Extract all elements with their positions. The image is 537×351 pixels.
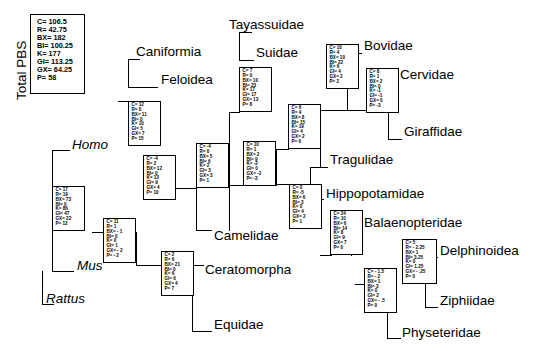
branch-horizontal xyxy=(192,331,212,332)
taxon-label-homo: Homo xyxy=(72,137,108,152)
pbs-row: P= 10 xyxy=(147,191,174,196)
pbs-row: P= - 2 xyxy=(107,254,134,259)
pbs-row: P= 1 xyxy=(200,179,227,184)
box-laurasiatheria: C= 11R= 1BX= - 1BI= 0K= 0GI= 1GX= - 2P= … xyxy=(103,218,136,263)
taxon-label-giraffidae: Giraffidae xyxy=(404,124,462,139)
branch-horizontal xyxy=(425,307,438,308)
taxon-label-ziphiidae: Ziphiidae xyxy=(440,293,495,308)
taxon-label-suidae: Suidae xyxy=(256,45,298,60)
branch-vertical xyxy=(276,149,277,186)
pbs-row: P= 2 xyxy=(330,80,357,85)
pbs-row: P= -3 xyxy=(247,177,274,182)
branch-horizontal xyxy=(387,338,401,339)
branch-vertical xyxy=(136,232,137,266)
taxon-label-hippopotamidae: Hippopotamidae xyxy=(326,186,424,201)
box-bovidae-node: C= 10R= 4BX= 10BI= 22K= 6GI= 4GX= 2P= 2 xyxy=(326,44,359,89)
branch-horizontal xyxy=(310,167,328,168)
branch-horizontal xyxy=(276,184,290,185)
box-carnivora: C= 12R= 0BX= 11BI= 0K= 10GI= 5GX= 7P= 15 xyxy=(128,101,161,146)
total-pbs-legend-box: C= 106.5 R= 42.75 BX= 182 BI= 100.25 K= … xyxy=(30,14,85,94)
legend-row: P= 58 xyxy=(37,74,79,82)
pbs-row: P= 7 xyxy=(165,287,192,292)
branch-horizontal xyxy=(239,60,254,61)
legend-title: Total PBS xyxy=(14,41,29,100)
branch-horizontal xyxy=(229,112,240,113)
branch-horizontal xyxy=(239,32,252,33)
taxon-label-rattus: Rattus xyxy=(46,291,85,306)
figure-canvas: Total PBS C= 106.5 R= 42.75 BX= 182 BI= … xyxy=(0,0,537,351)
taxon-label-equidae: Equidae xyxy=(214,317,264,332)
branch-horizontal xyxy=(196,230,212,231)
box-pecora: C= 6R= 4BX= 8BI= 15K= 19GI= 4GX= 2P= 0 xyxy=(288,104,321,149)
pbs-row: P= 0 xyxy=(406,275,435,280)
branch-horizontal xyxy=(229,185,244,186)
pbs-row: P= -3 xyxy=(370,104,397,109)
box-odontoceti: C= 5R= - 2.25BX= 1BI= 3.25K= 0GI= 1.25GX… xyxy=(402,239,437,284)
pbs-row: P= 0 xyxy=(368,304,395,309)
taxon-label-cervidae: Cervidae xyxy=(400,67,454,82)
branch-vertical xyxy=(42,271,43,305)
taxon-label-delphinoidea: Delphinoidea xyxy=(440,243,519,258)
pbs-row: P= 0 xyxy=(334,246,361,251)
box-ruminantia: C= 10R= 1BX= 2BI= 9K= -2GI= 0GX= -2P= -3 xyxy=(243,141,276,186)
branch-horizontal xyxy=(276,149,289,150)
pbs-row: P= 1 xyxy=(293,220,320,225)
taxon-label-tayassuidae: Tayassuidae xyxy=(229,17,304,32)
box-physeteroidea: C= - 1.5R= - 2BX= 1BI= 3K= 0GI= 2GX= - .… xyxy=(364,268,397,313)
branch-horizontal xyxy=(320,255,332,256)
branch-horizontal xyxy=(52,271,74,272)
branch-horizontal xyxy=(176,188,197,189)
taxon-label-tragulidae: Tragulidae xyxy=(330,152,393,167)
pbs-row: P= 12 xyxy=(56,222,83,227)
taxon-label-bovidae: Bovidae xyxy=(364,38,413,53)
pbs-row: P= 0 xyxy=(292,140,319,145)
taxon-label-balaenopteridae: Balaenopteridae xyxy=(364,215,462,230)
taxon-label-caniformia: Caniformia xyxy=(136,44,201,59)
box-cervidae-node: C= 8R= 1BX= 2BI= 0K= -1GI= -1GX= 0P= -3 xyxy=(366,68,399,113)
taxon-label-physeteridae: Physeteridae xyxy=(402,325,481,340)
box-suina: C= 7R= 0BX= 10BI= 23K= 17GI= 17GX= 13P= … xyxy=(239,67,272,112)
branch-horizontal xyxy=(128,87,158,88)
box-artio-a: C= -4R= 0BX= 5BI= 6K= 2GI= 3GX= 3P= 1 xyxy=(196,143,229,188)
pbs-row: P= 8 xyxy=(243,103,270,108)
box-euarchontoglires: C= 17R= 19BX= 73BI= 0K= 86GI= 47GX= 22P=… xyxy=(52,186,85,231)
taxon-label-ceratomorpha: Ceratomorpha xyxy=(205,262,291,277)
branch-vertical xyxy=(229,112,230,231)
branch-horizontal xyxy=(320,110,368,111)
branch-horizontal xyxy=(136,265,162,266)
branch-vertical xyxy=(196,188,197,231)
pbs-row: P= 15 xyxy=(132,137,159,142)
taxon-label-mus: Mus xyxy=(77,258,103,273)
taxon-label-feloidea: Feloidea xyxy=(161,72,213,87)
branch-horizontal xyxy=(388,139,402,140)
branch-horizontal xyxy=(128,59,140,60)
box-cetacea: C= 24R= 10BX= 6BI= 14K= 8GI= 9GX= 7P= 0 xyxy=(330,210,363,255)
box-perissodactyla: C= 2R= 6BX= 21BI= 0K= 6GI= 6GX= 4P= 7 xyxy=(161,251,194,296)
box-artio-b: C= -4R= 2BX= 12BI= 0K= 13GI= 9GX= 4P= 10 xyxy=(143,155,176,200)
branch-horizontal xyxy=(52,150,70,151)
branch-vertical xyxy=(239,32,240,61)
taxon-label-camelidae: Camelidae xyxy=(214,228,279,243)
branch-vertical xyxy=(128,59,129,88)
box-cetancodonta: C= 0R= -5BX= 6BI= 3K= 0GI= 4GX= 2P= 1 xyxy=(289,184,322,229)
